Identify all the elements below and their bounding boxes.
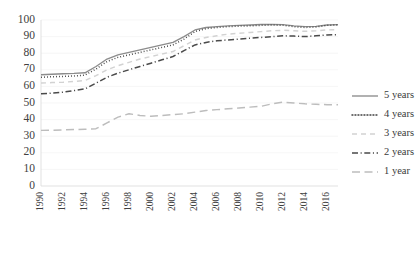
line-chart: 0102030405060708090100 19901992199419961… bbox=[0, 0, 420, 264]
y-tick-label: 70 bbox=[24, 62, 36, 74]
legend-label-2-years: 2 years bbox=[384, 146, 414, 157]
y-tick-label: 90 bbox=[24, 29, 36, 41]
x-tick-label: 1998 bbox=[123, 192, 133, 211]
legend-label-4-years: 4 years bbox=[384, 108, 414, 119]
y-tick-label: 10 bbox=[24, 162, 36, 174]
x-tick-label: 2004 bbox=[189, 192, 199, 211]
y-tick-label: 30 bbox=[24, 129, 36, 141]
x-tick-label: 1996 bbox=[101, 192, 111, 211]
x-tick-label: 2002 bbox=[167, 192, 177, 211]
x-tick-label: 1994 bbox=[79, 192, 89, 211]
x-tick-label: 2016 bbox=[321, 192, 331, 211]
y-tick-label: 20 bbox=[24, 145, 36, 157]
x-tick-label: 2000 bbox=[145, 192, 155, 211]
x-tick-label: 2010 bbox=[255, 192, 265, 211]
y-tick-label: 40 bbox=[24, 112, 36, 124]
x-tick-label: 2006 bbox=[211, 192, 221, 211]
x-tick-label: 1992 bbox=[57, 192, 67, 211]
legend-label-5-years: 5 years bbox=[384, 89, 414, 100]
x-tick-label: 1990 bbox=[35, 192, 45, 211]
y-tick-label: 100 bbox=[18, 13, 36, 25]
chart-background bbox=[0, 0, 420, 264]
y-tick-label: 0 bbox=[29, 179, 35, 191]
chart-canvas: 0102030405060708090100 19901992199419961… bbox=[0, 0, 420, 264]
y-tick-label: 80 bbox=[24, 46, 36, 58]
y-tick-label: 50 bbox=[24, 96, 36, 108]
x-tick-label: 2008 bbox=[233, 192, 243, 211]
y-tick-label: 60 bbox=[24, 79, 36, 91]
legend-label-3-years: 3 years bbox=[384, 127, 414, 138]
legend-label-1-year: 1 year bbox=[384, 165, 410, 176]
x-tick-label: 2014 bbox=[299, 192, 309, 211]
x-tick-label: 2012 bbox=[277, 192, 287, 211]
